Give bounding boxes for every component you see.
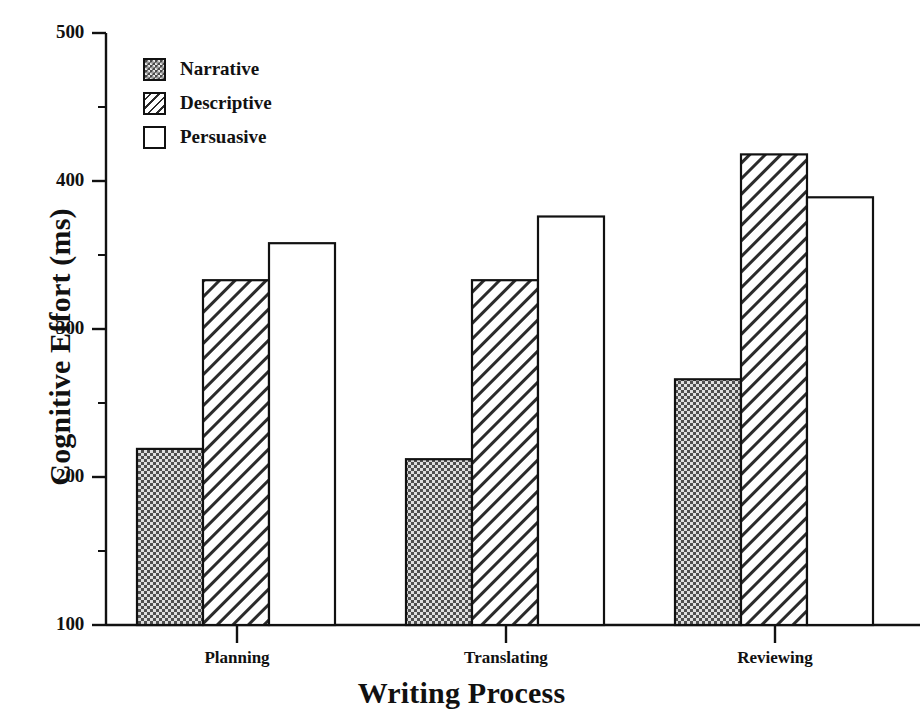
bar-translating-descriptive[interactable] bbox=[472, 280, 538, 625]
chart-plot-area bbox=[0, 0, 923, 721]
y-axis-title: Cognitive Effort (ms) bbox=[43, 97, 77, 597]
x-tick-label-translating: Translating bbox=[464, 648, 548, 668]
checkerboard-dark-swatch-icon bbox=[143, 58, 166, 81]
legend-label-narrative: Narrative bbox=[180, 58, 259, 80]
bar-translating-narrative[interactable] bbox=[406, 459, 472, 625]
bar-translating-persuasive[interactable] bbox=[538, 217, 604, 626]
legend-label-descriptive: Descriptive bbox=[180, 92, 272, 114]
diagonal-hatch-swatch-icon bbox=[143, 92, 166, 115]
bar-planning-persuasive[interactable] bbox=[269, 243, 335, 625]
empty-white-swatch-icon bbox=[143, 126, 166, 149]
x-axis-ticks bbox=[237, 625, 775, 643]
bar-reviewing-narrative[interactable] bbox=[675, 379, 741, 625]
bar-planning-descriptive[interactable] bbox=[203, 280, 269, 625]
bar-planning-narrative[interactable] bbox=[137, 449, 203, 625]
legend-item-descriptive[interactable]: Descriptive bbox=[143, 86, 272, 120]
y-axis-major-ticks bbox=[92, 33, 106, 625]
y-tick-label-100: 100 bbox=[24, 613, 84, 635]
x-tick-label-planning: Planning bbox=[204, 648, 269, 668]
legend-item-narrative[interactable]: Narrative bbox=[143, 52, 272, 86]
bar-reviewing-descriptive[interactable] bbox=[741, 154, 807, 625]
bar-group-translating bbox=[406, 217, 604, 626]
bar-group-reviewing bbox=[675, 154, 873, 625]
bar-group-planning bbox=[137, 243, 335, 625]
legend-label-persuasive: Persuasive bbox=[180, 126, 267, 148]
x-axis-title: Writing Process bbox=[0, 676, 923, 710]
legend-item-persuasive[interactable]: Persuasive bbox=[143, 120, 272, 154]
bar-reviewing-persuasive[interactable] bbox=[807, 197, 873, 625]
chart-legend: Narrative Descriptive Persuasive bbox=[143, 52, 272, 154]
x-tick-label-reviewing: Reviewing bbox=[737, 648, 813, 668]
bar-chart: 500 400 300 200 100 Planning Translating… bbox=[0, 0, 923, 721]
y-tick-label-500: 500 bbox=[24, 21, 84, 43]
